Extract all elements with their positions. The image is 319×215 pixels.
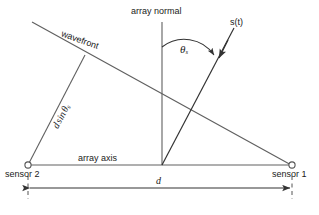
sensor-1-label: sensor 1 xyxy=(272,170,307,179)
signal-ray-arrowhead xyxy=(219,40,228,58)
sensor-2-marker xyxy=(25,162,31,168)
sensor-2-label: sensor 2 xyxy=(5,170,40,179)
figure-canvas: array normal wavefront s(t) θs dsinθs ar… xyxy=(0,0,319,215)
theta-angle-arc xyxy=(162,39,214,55)
theta-subscript: s xyxy=(185,48,188,55)
spacing-label: d xyxy=(156,176,161,186)
sensor-1-marker xyxy=(289,162,295,168)
signal-label: s(t) xyxy=(230,18,243,27)
theta-label: θs xyxy=(180,44,188,56)
array-axis-label: array axis xyxy=(78,154,117,163)
array-normal-label: array normal xyxy=(131,7,182,16)
